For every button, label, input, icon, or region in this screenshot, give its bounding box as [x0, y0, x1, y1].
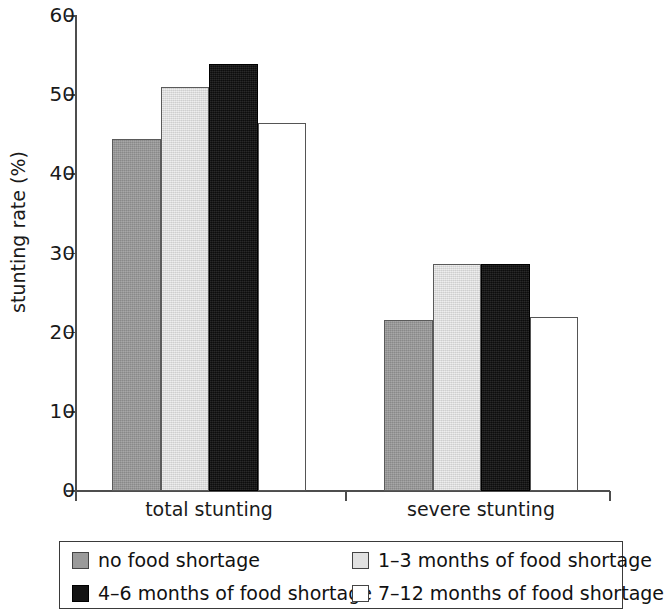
y-tick-label-60-wrap: 60 [0, 5, 75, 25]
y-axis-title: stunting rate (%) [8, 122, 28, 342]
bar-severe-stunting-7-12-months [530, 317, 579, 491]
bar-severe-stunting-4-6-months [481, 264, 530, 491]
bar-total-stunting-7-12-months [258, 123, 307, 491]
y-tick-label-0: 0 [17, 480, 75, 500]
legend-swatch-white-icon [352, 585, 369, 602]
y-tick-label-20: 20 [17, 322, 75, 342]
legend-item-no-food-shortage: no food shortage [72, 550, 260, 571]
bar-severe-stunting-1-3-months [433, 264, 482, 491]
y-tick-label-10-wrap: 10 [0, 401, 75, 421]
x-tick-end [609, 491, 611, 501]
bar-severe-stunting-no-food-shortage [384, 320, 433, 491]
y-tick-label-0-wrap: 0 [0, 480, 75, 500]
x-axis-label-severe-stunting: severe stunting [381, 498, 581, 520]
y-tick-label-30-wrap: 30 [0, 243, 75, 263]
y-tick-label-50: 50 [17, 84, 75, 104]
y-tick-label-30: 30 [17, 243, 75, 263]
y-tick-label-40-wrap: 40 [0, 163, 75, 183]
legend-label-7-12-months: 7–12 months of food shortage [378, 583, 664, 604]
legend-item-4-6-months: 4–6 months of food shortage [72, 583, 372, 604]
legend-swatch-light-icon [352, 552, 369, 569]
y-axis-line [75, 15, 77, 491]
bar-total-stunting-1-3-months [161, 87, 210, 491]
y-tick-label-60: 60 [17, 5, 75, 25]
plot-area: stunting rate (%) 60 50 40 30 20 10 [0, 0, 625, 520]
bar-total-stunting-no-food-shortage [112, 139, 161, 491]
y-tick-label-50-wrap: 50 [0, 84, 75, 104]
x-tick-start [75, 491, 77, 501]
legend-swatch-gray-icon [72, 552, 89, 569]
x-tick-group-separator [345, 491, 347, 501]
legend-swatch-black-icon [72, 585, 89, 602]
y-tick-label-10: 10 [17, 401, 75, 421]
legend-item-1-3-months: 1–3 months of food shortage [352, 550, 652, 571]
chart-legend: no food shortage 1–3 months of food shor… [59, 541, 623, 609]
legend-label-1-3-months: 1–3 months of food shortage [378, 550, 652, 571]
legend-label-4-6-months: 4–6 months of food shortage [98, 583, 372, 604]
bar-total-stunting-4-6-months [209, 64, 258, 491]
y-tick-label-40: 40 [17, 163, 75, 183]
x-axis-label-total-stunting: total stunting [109, 498, 309, 520]
y-tick-label-20-wrap: 20 [0, 322, 75, 342]
legend-label-no-food-shortage: no food shortage [98, 550, 260, 571]
legend-item-7-12-months: 7–12 months of food shortage [352, 583, 664, 604]
